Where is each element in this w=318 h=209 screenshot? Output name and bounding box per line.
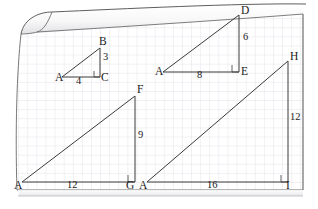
vertex-label-ahi-a: A xyxy=(139,180,147,192)
measure-label-abc-height: 3 xyxy=(103,52,108,63)
measure-label-ahi-base: 16 xyxy=(207,180,218,191)
vertex-label-ade-e: E xyxy=(241,66,248,78)
vertex-label-afg-g: G xyxy=(126,180,134,192)
vertex-label-ade-a: A xyxy=(155,66,163,78)
measure-label-ade-base: 8 xyxy=(197,70,202,81)
vertex-label-afg-f: F xyxy=(137,84,143,96)
measure-label-afg-base: 12 xyxy=(67,180,78,191)
measure-label-ahi-height: 12 xyxy=(290,112,301,123)
figure-page: A B C A D E A F G A H I 4 3 8 6 12 9 16 … xyxy=(0,0,318,209)
geometry-figure xyxy=(0,0,318,209)
vertex-label-abc-b: B xyxy=(99,36,107,48)
measure-label-ade-height: 6 xyxy=(243,32,248,43)
vertex-label-abc-c: C xyxy=(101,72,109,84)
vertex-label-ahi-i: I xyxy=(286,180,290,192)
vertex-label-abc-a: A xyxy=(55,72,63,84)
paper-sheet xyxy=(10,8,310,198)
measure-label-afg-height: 9 xyxy=(138,130,143,141)
sheet-bottom-shadow xyxy=(18,190,303,196)
measure-label-abc-base: 4 xyxy=(76,76,81,87)
graph-paper-grid xyxy=(10,8,310,198)
vertex-label-ahi-h: H xyxy=(290,51,298,63)
vertex-label-ade-d: D xyxy=(241,5,249,17)
vertex-label-afg-a: A xyxy=(14,180,22,192)
